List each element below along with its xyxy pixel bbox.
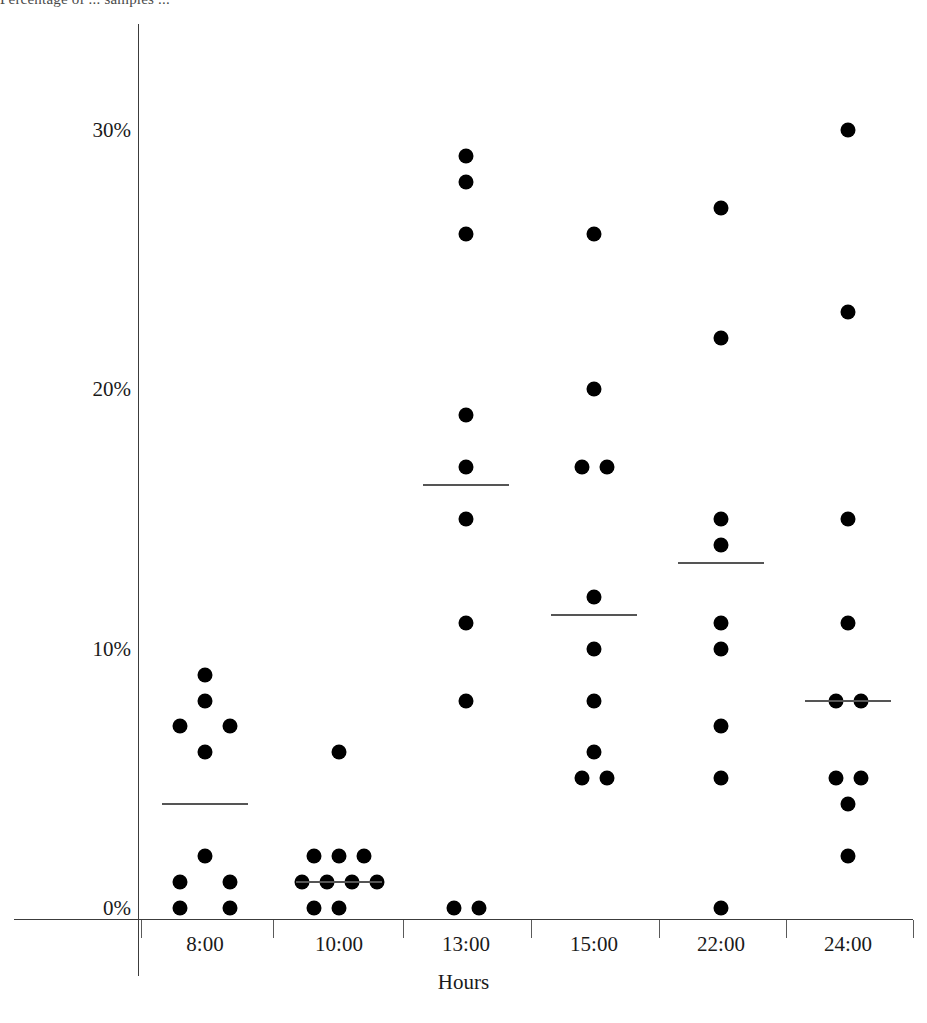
data-point	[471, 901, 486, 916]
scatter-plot: 0%10%20%30% 8:0010:0013:0015:0022:0024:0…	[0, 0, 927, 1023]
data-point	[307, 901, 322, 916]
data-point	[714, 330, 729, 345]
data-point	[587, 382, 602, 397]
data-point	[332, 849, 347, 864]
data-point	[841, 797, 856, 812]
data-point	[714, 537, 729, 552]
data-point	[587, 589, 602, 604]
data-point	[828, 771, 843, 786]
data-point	[459, 512, 474, 527]
data-point	[714, 200, 729, 215]
mean-line	[678, 562, 764, 564]
data-point	[173, 875, 188, 890]
mean-line	[162, 803, 248, 805]
data-point	[841, 849, 856, 864]
data-point	[459, 615, 474, 630]
mean-line	[423, 484, 509, 486]
data-point	[714, 771, 729, 786]
data-point	[198, 849, 213, 864]
data-point	[574, 460, 589, 475]
data-point	[599, 460, 614, 475]
x-axis-line	[14, 919, 913, 920]
y-axis-tick-label: 20%	[11, 377, 131, 402]
data-point	[714, 615, 729, 630]
data-point	[459, 693, 474, 708]
data-point	[841, 123, 856, 138]
data-point	[198, 667, 213, 682]
data-point	[223, 875, 238, 890]
data-point	[446, 901, 461, 916]
x-axis-tick-label: 8:00	[140, 932, 270, 957]
data-point	[841, 304, 856, 319]
x-axis-tick-label: 15:00	[529, 932, 659, 957]
data-point	[223, 719, 238, 734]
data-point	[173, 719, 188, 734]
mean-line	[551, 614, 637, 616]
data-point	[841, 512, 856, 527]
data-point	[714, 719, 729, 734]
data-point	[459, 226, 474, 241]
data-point	[198, 693, 213, 708]
data-point	[198, 745, 213, 760]
data-point	[459, 174, 474, 189]
data-point	[459, 408, 474, 423]
mean-line	[296, 881, 382, 883]
x-axis-tick-label: 22:00	[656, 932, 786, 957]
data-point	[587, 641, 602, 656]
data-point	[223, 901, 238, 916]
data-point	[587, 226, 602, 241]
data-point	[841, 615, 856, 630]
data-point	[307, 849, 322, 864]
x-axis-title: Hours	[0, 970, 927, 995]
x-axis-tick-label: 13:00	[401, 932, 531, 957]
y-axis-line	[138, 24, 139, 976]
y-axis-tick-label: 10%	[11, 636, 131, 661]
data-point	[459, 460, 474, 475]
data-point	[714, 641, 729, 656]
mean-line	[805, 700, 891, 702]
data-point	[714, 512, 729, 527]
y-axis-tick-label: 30%	[11, 118, 131, 143]
x-axis-tick-label: 24:00	[783, 932, 913, 957]
y-axis-tick-label: 0%	[11, 896, 131, 921]
data-point	[587, 693, 602, 708]
x-axis-tick-label: 10:00	[274, 932, 404, 957]
data-point	[714, 901, 729, 916]
data-point	[599, 771, 614, 786]
data-point	[357, 849, 372, 864]
data-point	[574, 771, 589, 786]
data-point	[332, 745, 347, 760]
data-point	[587, 745, 602, 760]
data-point	[853, 771, 868, 786]
chart-page: Percentage of ... samples ... 0%10%20%30…	[0, 0, 927, 1023]
x-axis-tick	[913, 920, 914, 938]
data-point	[459, 149, 474, 164]
data-point	[332, 901, 347, 916]
data-point	[173, 901, 188, 916]
